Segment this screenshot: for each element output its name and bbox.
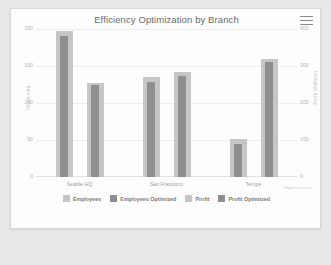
plot-area: Headcount Profit (millions) 050100150200… (36, 29, 297, 177)
legend-item[interactable]: Profit Optimized (218, 195, 270, 202)
bar-group: San Francisco (123, 29, 210, 177)
bar-groups: Seattle HQSan FranciscoTempe (36, 29, 297, 177)
legend-swatch (185, 195, 192, 202)
y-tick-left: 0 (30, 174, 33, 179)
y-tick-right: 0 (300, 174, 303, 179)
legend-swatch (63, 195, 70, 202)
bar-pair[interactable] (87, 29, 104, 177)
y-tick-left: 50 (27, 137, 33, 142)
y-tick-right: 100 (300, 137, 309, 142)
legend-swatch (110, 195, 117, 202)
chart-card: Efficiency Optimization by Branch Headco… (10, 8, 321, 229)
y-tick-left: 100 (24, 100, 33, 105)
y-axis-title-left: Headcount (26, 68, 31, 128)
legend-label: Employees Optimized (120, 196, 176, 202)
chart-title: Efficiency Optimization by Branch (11, 14, 321, 25)
x-axis-category-label: San Francisco (123, 181, 210, 187)
legend-item[interactable]: Employees Optimized (110, 195, 176, 202)
bar-optimized[interactable] (265, 62, 274, 177)
y-tick-right: 400 (300, 26, 309, 31)
y-tick-left: 200 (24, 26, 33, 31)
bar-optimized[interactable] (60, 36, 69, 177)
legend-label: Profit Optimized (228, 196, 270, 202)
bar-optimized[interactable] (91, 85, 100, 177)
y-tick-right: 200 (300, 100, 309, 105)
legend-label: Employees (73, 196, 101, 202)
x-axis-category-label: Seattle HQ (36, 181, 123, 187)
bar-group: Tempe (210, 29, 297, 177)
legend-item[interactable]: Employees (63, 195, 101, 202)
bar-optimized[interactable] (234, 144, 243, 177)
bar-pair[interactable] (261, 29, 278, 177)
y-tick-right: 300 (300, 63, 309, 68)
bar-pair[interactable] (143, 29, 160, 177)
legend-label: Profit (195, 196, 209, 202)
screenshot-root: Efficiency Optimization by Branch Headco… (0, 0, 331, 265)
chart-legend: EmployeesEmployees OptimizedProfitProfit… (11, 195, 321, 202)
bar-optimized[interactable] (147, 82, 156, 177)
chart-credit: Highcharts.com (284, 185, 312, 190)
legend-item[interactable]: Profit (185, 195, 209, 202)
bar-group: Seattle HQ (36, 29, 123, 177)
legend-swatch (218, 195, 225, 202)
bar-optimized[interactable] (178, 76, 187, 177)
menu-bar-1 (300, 16, 313, 17)
y-axis-title-right: Profit (millions) (313, 58, 318, 118)
bar-pair[interactable] (56, 29, 73, 177)
y-tick-left: 150 (24, 63, 33, 68)
bar-pair[interactable] (230, 29, 247, 177)
bar-pair[interactable] (174, 29, 191, 177)
menu-bar-2 (300, 20, 313, 21)
